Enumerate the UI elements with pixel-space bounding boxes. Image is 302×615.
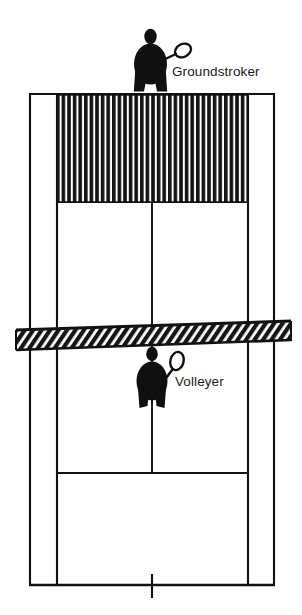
label-groundstroker: Groundstroker xyxy=(172,64,260,79)
volleyer-head xyxy=(146,347,158,361)
shaded-groundstroke-zone xyxy=(57,95,248,202)
label-volleyer: Volleyer xyxy=(175,374,224,389)
tennis-court-diagram: Groundstroker Volleyer xyxy=(0,0,302,615)
volleyer-racket-head xyxy=(168,350,185,371)
groundstroker-racket-head xyxy=(173,41,194,60)
player-figure-groundstroker xyxy=(134,29,194,92)
groundstroker-head xyxy=(144,29,156,45)
court-illustration xyxy=(0,0,302,615)
